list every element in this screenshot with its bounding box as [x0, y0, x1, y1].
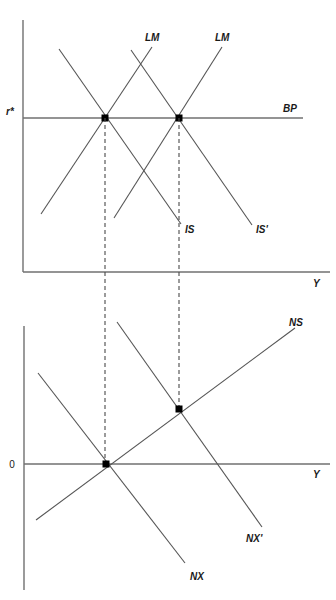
curve-nx	[38, 373, 185, 563]
label-lm: LM	[145, 32, 160, 43]
label-lm-prime: LM	[215, 32, 230, 43]
label-is: IS	[185, 224, 195, 235]
label-nx-prime: NX'	[246, 533, 263, 544]
label-r-star: r*	[6, 106, 15, 117]
economics-diagram-figure: r* BP LM LM IS IS' Y 0 NS NX NX' Y	[0, 0, 336, 600]
panel-islm: r* BP LM LM IS IS' Y	[6, 20, 330, 289]
label-zero: 0	[9, 459, 15, 470]
label-bp: BP	[283, 103, 297, 114]
curve-nx-prime	[117, 322, 262, 527]
panel-nxns: 0 NS NX NX' Y	[9, 317, 330, 590]
label-y-axis-bottom-panel: Y	[313, 469, 321, 480]
curve-lm-prime	[114, 47, 222, 218]
dashed-connectors	[105, 118, 179, 464]
label-is-prime: IS'	[256, 224, 268, 235]
label-y-axis-top-panel: Y	[313, 278, 321, 289]
curve-is-prime	[131, 50, 252, 225]
label-ns: NS	[289, 317, 303, 328]
label-nx: NX	[190, 571, 205, 582]
equilibrium-point-f0	[103, 461, 110, 468]
curve-is	[59, 49, 181, 224]
curve-ns	[36, 328, 295, 520]
curve-lm	[41, 47, 152, 214]
equilibrium-point-f1	[176, 406, 183, 413]
islm-nxns-diagram-canvas: r* BP LM LM IS IS' Y 0 NS NX NX' Y	[0, 0, 336, 600]
